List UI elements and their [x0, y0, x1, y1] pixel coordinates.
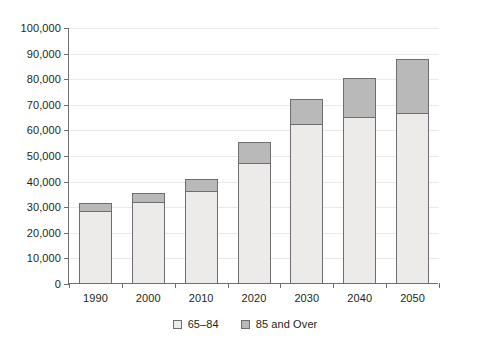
x-axis-label: 2050: [400, 292, 425, 304]
gridline: [69, 284, 439, 285]
bar-segment-65-84[interactable]: [132, 202, 165, 283]
bar-column[interactable]: [132, 193, 165, 283]
x-axis-label: 2020: [242, 292, 267, 304]
x-axis-tick: [439, 283, 440, 288]
gridline: [69, 79, 439, 80]
stacked-bar[interactable]: [343, 78, 376, 283]
legend-swatch-old: [241, 320, 250, 329]
bar-segment-65-84[interactable]: [396, 113, 429, 283]
bar-column[interactable]: [238, 142, 271, 283]
gridline: [69, 130, 439, 131]
y-axis-label: 100,000: [21, 22, 61, 34]
bar-segment-85-and-over[interactable]: [343, 78, 376, 116]
legend-label: 65–84: [188, 318, 219, 330]
bar-segment-85-and-over[interactable]: [79, 203, 112, 211]
stacked-bar[interactable]: [290, 99, 323, 283]
bar-segment-65-84[interactable]: [185, 191, 218, 283]
x-axis-tick: [280, 283, 281, 288]
bar-segment-65-84[interactable]: [238, 163, 271, 283]
legend-swatch-young: [173, 320, 182, 329]
bar-segment-85-and-over[interactable]: [396, 59, 429, 113]
stacked-bar[interactable]: [238, 142, 271, 283]
gridline: [69, 54, 439, 55]
y-axis-label: 50,000: [27, 150, 61, 162]
x-axis-tick: [386, 283, 387, 288]
bar-segment-65-84[interactable]: [290, 124, 323, 283]
x-axis-label: 2000: [136, 292, 161, 304]
y-axis-label: 20,000: [27, 227, 61, 239]
y-axis-tick: [64, 79, 69, 80]
bar-column[interactable]: [185, 179, 218, 283]
bar-segment-85-and-over[interactable]: [238, 142, 271, 162]
bar-segment-65-84[interactable]: [79, 211, 112, 283]
stacked-bar[interactable]: [396, 59, 429, 283]
y-axis-label: 90,000: [27, 48, 61, 60]
bar-segment-65-84[interactable]: [343, 117, 376, 283]
y-axis-tick: [64, 258, 69, 259]
y-axis-label: 30,000: [27, 201, 61, 213]
bar-column[interactable]: [79, 203, 112, 283]
y-axis-label: 80,000: [27, 73, 61, 85]
stacked-bar[interactable]: [79, 203, 112, 283]
plot-area: 010,00020,00030,00040,00050,00060,00070,…: [68, 28, 438, 284]
y-axis-label: 70,000: [27, 99, 61, 111]
gridline: [69, 28, 439, 29]
y-axis-tick: [64, 54, 69, 55]
bar-column[interactable]: [343, 78, 376, 283]
y-axis-tick: [64, 105, 69, 106]
x-axis-tick: [69, 283, 70, 288]
x-axis-tick: [175, 283, 176, 288]
y-axis-label: 60,000: [27, 124, 61, 136]
gridline: [69, 105, 439, 106]
legend-label: 85 and Over: [256, 318, 318, 330]
x-axis-label: 1990: [83, 292, 108, 304]
stacked-bar[interactable]: [132, 193, 165, 283]
y-axis-tick: [64, 28, 69, 29]
bar-column[interactable]: [396, 59, 429, 283]
y-axis-tick: [64, 182, 69, 183]
x-axis-label: 2030: [294, 292, 319, 304]
y-axis-tick: [64, 156, 69, 157]
bar-segment-85-and-over[interactable]: [185, 179, 218, 191]
legend-item[interactable]: 85 and Over: [241, 318, 318, 330]
y-axis-tick: [64, 207, 69, 208]
chart-legend: 65–8485 and Over: [0, 318, 490, 330]
bar-segment-85-and-over[interactable]: [132, 193, 165, 202]
x-axis-tick: [333, 283, 334, 288]
y-axis-tick: [64, 233, 69, 234]
bar-column[interactable]: [290, 99, 323, 283]
x-axis-tick: [228, 283, 229, 288]
bar-segment-85-and-over[interactable]: [290, 99, 323, 125]
y-axis-label: 10,000: [27, 252, 61, 264]
x-axis-label: 2040: [347, 292, 372, 304]
chart-figure: 010,00020,00030,00040,00050,00060,00070,…: [0, 0, 490, 350]
legend-item[interactable]: 65–84: [173, 318, 219, 330]
y-axis-label: 0: [55, 278, 61, 290]
x-axis-label: 2010: [189, 292, 214, 304]
y-axis-tick: [64, 130, 69, 131]
stacked-bar[interactable]: [185, 179, 218, 283]
y-axis-label: 40,000: [27, 176, 61, 188]
x-axis-tick: [122, 283, 123, 288]
